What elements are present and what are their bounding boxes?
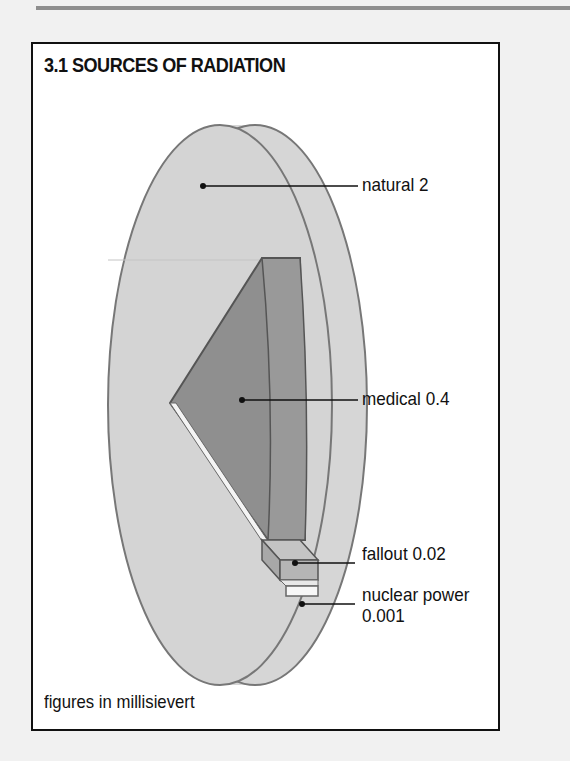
label-medical: medical 0.4: [362, 388, 449, 409]
label-nuclear-power: nuclear power: [362, 584, 469, 605]
units-footnote: figures in millisievert: [44, 691, 195, 713]
slice-nuclear-power: [280, 580, 318, 596]
label-nuclear-power-value: 0.001: [362, 605, 405, 626]
pie-disc-chart: [0, 0, 570, 761]
label-fallout: fallout 0.02: [362, 543, 446, 564]
label-natural: natural 2: [362, 174, 429, 195]
